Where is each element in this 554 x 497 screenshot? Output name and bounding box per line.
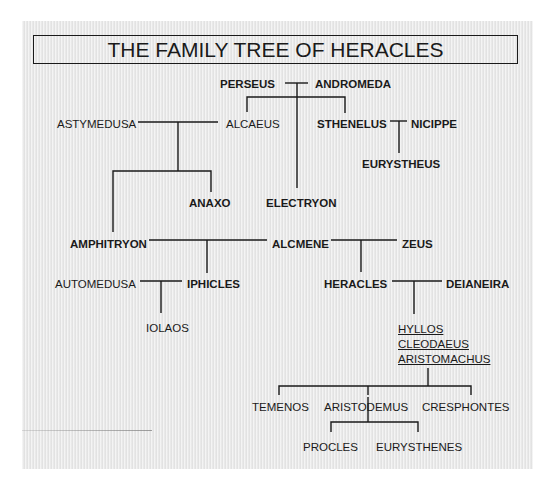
- children-bracket-aristomachus: [279, 386, 471, 395]
- person-nicippe: NICIPPE: [411, 118, 457, 131]
- person-aristomachus: ARISTOMACHUS: [398, 353, 490, 366]
- children-bracket-aristodemus: [331, 422, 418, 432]
- person-zeus: ZEUS: [402, 238, 433, 251]
- person-amphitryon: AMPHITRYON: [70, 238, 147, 251]
- person-iolaos: IOLAOS: [146, 322, 189, 335]
- person-cresphontes: CRESPHONTES: [422, 401, 510, 414]
- scratch-mark: [22, 430, 152, 431]
- person-perseus: PERSEUS: [220, 78, 275, 91]
- person-electryon: ELECTRYON: [266, 197, 337, 210]
- person-procles: PROCLES: [303, 441, 358, 454]
- person-anaxo: ANAXO: [189, 197, 231, 210]
- person-temenos: TEMENOS: [252, 401, 309, 414]
- person-deianeira: DEIANEIRA: [446, 278, 509, 291]
- person-astymedusa: ASTYMEDUSA: [57, 118, 136, 131]
- person-eurystheus: EURYSTHEUS: [362, 158, 440, 171]
- person-alcmene: ALCMENE: [272, 238, 329, 251]
- person-alcaeus: ALCAEUS: [226, 118, 280, 131]
- children-bracket-perseus: [247, 97, 345, 113]
- person-aristodemus: ARISTODEMUS: [324, 401, 408, 414]
- person-automedusa: AUTOMEDUSA: [55, 278, 136, 291]
- person-hyllos: HYLLOS: [398, 323, 443, 336]
- person-andromeda: ANDROMEDA: [315, 78, 391, 91]
- person-heracles: HERACLES: [324, 278, 387, 291]
- person-cleodaeus: CLEODAEUS: [398, 338, 469, 351]
- person-iphicles: IPHICLES: [187, 278, 240, 291]
- person-sthenelus: STHENELUS: [317, 118, 387, 131]
- person-eurysthenes: EURYSTHENES: [376, 441, 462, 454]
